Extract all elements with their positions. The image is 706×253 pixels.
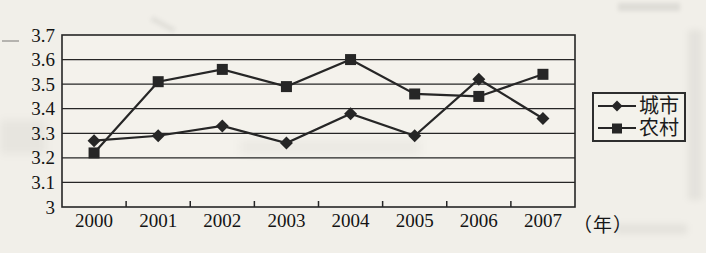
legend-item-0: 城市	[598, 96, 681, 116]
data-point-1-2007	[537, 69, 548, 80]
y-tick-label: 3.3	[31, 123, 55, 144]
y-tick-label: 3.4	[31, 98, 55, 119]
scanned-chart-figure: 33.13.23.33.43.53.63.7200020012002200320…	[0, 0, 706, 253]
legend-marker-glyph	[612, 123, 622, 133]
x-tick-label: 2006	[460, 210, 498, 231]
data-point-1-2000	[89, 147, 100, 158]
square-marker-icon	[598, 121, 636, 135]
legend-marker-glyph	[612, 101, 623, 112]
data-point-1-2002	[217, 64, 228, 75]
x-tick-label: 2000	[75, 210, 113, 231]
y-tick-label: 3.1	[31, 172, 55, 193]
data-point-1-2001	[153, 76, 164, 87]
y-tick-label: 3.2	[31, 147, 55, 168]
chart-legend: 城市农村	[592, 92, 686, 142]
plot-border	[62, 35, 575, 207]
y-tick-label: 3	[46, 197, 56, 218]
y-tick-label: 3.5	[31, 74, 55, 95]
x-tick-label: 2001	[139, 210, 177, 231]
x-tick-label: 2004	[332, 210, 371, 231]
data-point-1-2006	[473, 91, 484, 102]
y-tick-label: 3.7	[31, 25, 55, 46]
data-point-1-2004	[345, 54, 356, 65]
y-tick-label: 3.6	[31, 49, 55, 70]
x-tick-label: 2002	[203, 210, 241, 231]
x-tick-label: 2007	[524, 210, 562, 231]
legend-label-0: 城市	[639, 96, 679, 116]
x-tick-label: 2005	[396, 210, 434, 231]
data-point-1-2005	[409, 88, 420, 99]
x-axis-unit-label: （年）	[573, 210, 633, 237]
diamond-marker-icon	[598, 99, 636, 113]
x-tick-label: 2003	[267, 210, 305, 231]
legend-item-1: 农村	[598, 118, 681, 138]
legend-label-1: 农村	[639, 118, 679, 138]
data-point-1-2003	[281, 81, 292, 92]
